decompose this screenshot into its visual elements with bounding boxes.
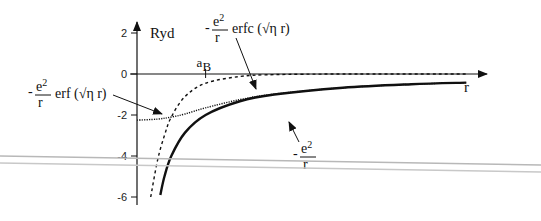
label-erf-minus: - (28, 84, 33, 99)
curves (137, 74, 466, 197)
coulomb-curve (160, 83, 466, 195)
label-erfc-minus: - (205, 20, 210, 35)
y-ticks: 20-2-4-6 (117, 27, 137, 203)
y-tick-label: 0 (121, 68, 127, 80)
label-coulomb-den: r (303, 157, 308, 172)
label-erf-num: e2 (36, 77, 47, 94)
chart: Ryd r 20-2-4-6 aB - e2 r erfc (√η r) - e… (0, 0, 541, 221)
label-erfc-suffix: erfc (√η r) (232, 21, 290, 37)
label-erf-suffix: erf (√η r) (55, 86, 107, 102)
label-erfc: - e2 r erfc (√η r) (205, 12, 290, 89)
y-tick-label: -2 (117, 109, 127, 121)
label-coulomb-pointer (289, 122, 299, 142)
label-erf-den: r (38, 95, 43, 110)
label-coulomb-num: e2 (301, 139, 312, 156)
label-erfc-den: r (215, 30, 220, 45)
bohr-radius-subscript: B (202, 59, 211, 74)
x-axis-label: r (464, 79, 469, 95)
label-erf: - e2 r erf (√η r) (28, 77, 162, 114)
y-axis-label: Ryd (150, 25, 175, 41)
y-tick-label: 2 (121, 27, 127, 39)
label-erfc-num: e2 (213, 12, 224, 29)
y-tick-label: -4 (117, 150, 127, 162)
erfc-curve (151, 74, 467, 197)
label-erfc-pointer (236, 38, 256, 89)
label-coulomb: - e2 r (289, 122, 316, 172)
label-coulomb-minus: - (293, 146, 298, 161)
erf-curve (137, 83, 466, 121)
y-tick-label: -6 (117, 191, 127, 203)
svg-text:aB: aB (197, 55, 212, 74)
